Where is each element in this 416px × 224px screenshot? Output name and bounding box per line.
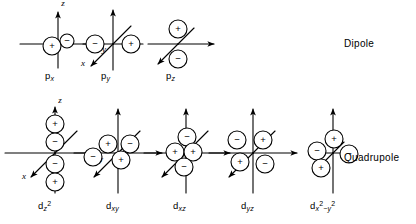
lobe-sign-positive-0: + <box>175 23 181 34</box>
lobe-sign-negative-0: − <box>184 131 190 142</box>
orbital-d-xz: −++− <box>144 109 230 193</box>
quadrupole-row: zyx+−−++−−+−++−−++−+−−+ <box>5 95 358 193</box>
axis-label-x-axis: x <box>21 171 26 181</box>
orbital-d-xy: +−−+ <box>74 109 162 193</box>
lobe-sign-negative-0: − <box>92 38 98 49</box>
lobe-sign-positive-3: + <box>118 154 124 165</box>
lobe-sign-negative-1: − <box>314 145 320 156</box>
orbital-label-d-z2: dz2 <box>38 200 51 211</box>
lobe-sign-positive-0: + <box>331 133 337 144</box>
lobe-sign-negative-1: − <box>52 136 58 147</box>
lobe-sign-positive-0: + <box>52 118 58 129</box>
lobe-sign-positive-3: + <box>52 176 58 187</box>
lobe-sign-negative-0: − <box>234 134 240 145</box>
lobe-sign-positive-1: + <box>128 38 134 49</box>
lobe-sign-positive-1: + <box>260 134 266 145</box>
orbital-diagram: zy+−x−++−zyx+−−++−−+−++−−++−+−−+ <box>0 0 416 224</box>
axis-label-x-axis: x <box>80 58 85 68</box>
lobe-sign-positive-2: + <box>190 146 196 157</box>
lobe-sign-negative-3: − <box>181 161 187 172</box>
orbital-label-d-yz: dyz <box>241 200 254 211</box>
orbital-p-x: zy+− <box>20 0 106 68</box>
orbital-label-p-y: py <box>101 70 110 81</box>
orbital-d-z2: zyx+−−+ <box>5 95 103 193</box>
axis-label-z-axis: z <box>60 0 65 8</box>
orbital-p-y: x−+ <box>80 10 143 70</box>
lobe-sign-positive-0: + <box>105 138 111 149</box>
lobe-sign-negative-1: − <box>175 53 181 64</box>
orbital-label-d-x2-y2: dx2−y2 <box>310 200 335 211</box>
orbital-d-x2-y2: +−−+ <box>308 109 358 193</box>
row-label-quadrupole-row: Quadrupole <box>344 152 399 163</box>
lobe-sign-positive-1: + <box>172 146 178 157</box>
row-label-dipole-row: Dipole <box>344 38 374 49</box>
orbital-label-p-x: px <box>45 70 54 81</box>
orbital-label-d-xz: dxz <box>173 200 186 211</box>
lobe-sign-negative-2: − <box>52 158 58 169</box>
orbital-p-z: +− <box>148 20 214 68</box>
lobe-sign-positive-0: + <box>49 40 55 51</box>
lobe-sign-positive-3: + <box>318 162 324 173</box>
orbital-label-d-xy: dxy <box>106 200 119 211</box>
lobe-sign-negative-1: − <box>64 35 70 46</box>
orbital-svg-canvas: zy+−x−++−zyx+−−++−−+−++−−++−+−−+ <box>0 0 416 224</box>
orbital-d-yz: −++− <box>209 109 297 193</box>
axis-label-z-axis: z <box>57 95 62 105</box>
dipole-row: zy+−x−++− <box>20 0 214 70</box>
lobe-sign-negative-2: − <box>90 151 96 162</box>
lobe-sign-positive-2: + <box>237 156 243 167</box>
orbital-label-p-z: pz <box>166 70 175 81</box>
lobe-sign-negative-3: − <box>262 158 268 169</box>
lobe-sign-negative-1: − <box>127 138 133 149</box>
